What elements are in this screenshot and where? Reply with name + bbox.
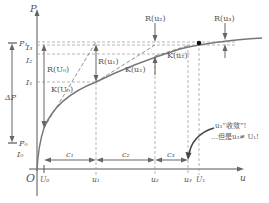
label-u2: u₂ (151, 175, 159, 184)
label-u3: u₃ (184, 175, 192, 184)
label-I2: I₂ (25, 56, 32, 65)
label-I3: I₃ (25, 43, 32, 52)
label-R-U0: R(U₀) (47, 65, 69, 74)
label-R-u3: R(u₃) (214, 14, 235, 23)
y-tick-labels: P₁ I₃ I₂ I₁ ΔP P₀ I₀ (4, 39, 32, 159)
level-lines (37, 42, 236, 82)
y-axis: P (29, 3, 40, 196)
x-tick-labels: U₀ u₁ u₂ u₃ U₁ (40, 165, 205, 184)
label-R-u1: R(u₁) (98, 57, 119, 66)
label-I1: I₁ (25, 78, 32, 87)
newton-iteration-diagram: P u O P₁ I₃ I₂ I (0, 0, 269, 203)
label-delta-P: ΔP (4, 93, 17, 102)
annotation-line1: u₃“收敛”! (215, 121, 246, 130)
label-c2: c₂ (122, 150, 130, 159)
y-axis-label: P (29, 3, 37, 14)
solution-point (197, 41, 202, 46)
label-K-u2: K(u₂) (167, 51, 188, 60)
step-labels: c₁ c₂ c₃ (66, 150, 175, 159)
label-U0: U₀ (40, 175, 49, 184)
label-c1: c₁ (66, 150, 74, 159)
residual-arrows (42, 23, 228, 128)
annotation-line2: …但是u₃≠ U₁! (211, 132, 259, 141)
tangent-labels: K(U₀) K(u₁) K(u₂) (51, 51, 188, 94)
label-I0: I₀ (16, 150, 24, 159)
convergence-annotation: u₃“收敛”! …但是u₃≠ U₁! (186, 121, 259, 160)
x-axis: u O (26, 167, 246, 186)
label-c3: c₃ (167, 150, 175, 159)
origin-label: O (26, 172, 35, 185)
label-U1: U₁ (196, 175, 205, 184)
label-u1: u₁ (92, 175, 100, 184)
x-axis-label: u (240, 173, 246, 183)
label-K-U0: K(U₀) (51, 85, 73, 94)
label-K-u1: K(u₁) (125, 65, 146, 74)
label-P0: P₀ (18, 139, 28, 148)
label-R-u2: R(u₂) (145, 14, 166, 23)
